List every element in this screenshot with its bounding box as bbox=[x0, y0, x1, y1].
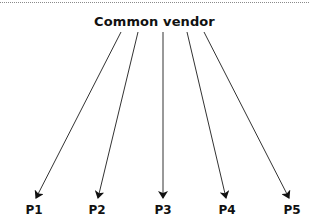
target-node-p2: P2 bbox=[88, 203, 105, 217]
edge-arrow-p5 bbox=[204, 32, 289, 198]
edge-arrow-p1 bbox=[36, 32, 121, 198]
edges bbox=[0, 0, 309, 224]
target-node-p3: P3 bbox=[154, 203, 171, 217]
edge-arrow-p2 bbox=[98, 32, 138, 198]
edge-arrow-p4 bbox=[187, 32, 226, 198]
target-node-p4: P4 bbox=[218, 203, 235, 217]
target-node-p1: P1 bbox=[25, 203, 42, 217]
target-node-p5: P5 bbox=[283, 203, 300, 217]
